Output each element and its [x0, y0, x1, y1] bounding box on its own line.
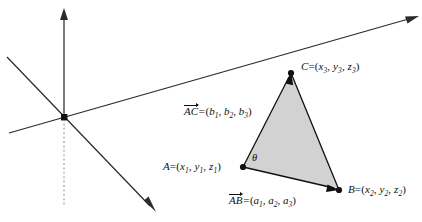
vector-ac-name: AC: [184, 105, 198, 117]
triangle-abc-fill: [243, 73, 339, 190]
point-a-x-sub: 1: [185, 166, 189, 175]
point-b-label: B=(x2, y2, z2): [348, 184, 406, 195]
vertical-axis-arrowhead: [60, 8, 68, 20]
point-a-name: A: [163, 160, 170, 172]
point-c-x-sub: 3: [324, 66, 328, 75]
vector-ac-equals: =: [198, 105, 205, 117]
vector-ab-comp3: a: [283, 194, 289, 206]
vector-ab-equals: =: [242, 194, 249, 206]
point-b-y-sub: 2: [384, 189, 388, 198]
vector-ac-comp2-sub: 2: [229, 111, 233, 120]
point-b-name: B: [348, 183, 355, 195]
vector-ab-comp1-sub: 1: [259, 200, 263, 209]
vector-ab-comp2: a: [268, 194, 274, 206]
point-a-y-sub: 1: [199, 166, 203, 175]
point-c-label: C=(x3, y3, z3): [301, 61, 360, 72]
vector-ac-label: AC=(b1, b2, b3): [184, 105, 252, 117]
vector-ab-comp2-sub: 2: [274, 200, 278, 209]
vector-ab-label: AB=(a1, a2, a3): [229, 194, 296, 206]
point-b-z-sub: 2: [398, 189, 402, 198]
vertex-b-point: [336, 187, 342, 193]
point-c-paren-close: ): [356, 60, 360, 72]
front-axis-line: [7, 57, 150, 206]
point-a-label: A=(x1, y1, z1): [163, 161, 221, 172]
vertex-c-point: [288, 70, 294, 76]
front-axis-arrowhead: [144, 197, 156, 213]
point-c-x: x: [319, 60, 324, 72]
vector-ab-paren-close: ): [292, 194, 296, 206]
point-c-y-sub: 3: [338, 66, 342, 75]
angle-theta-label: θ: [252, 152, 257, 163]
point-a-z-sub: 1: [213, 166, 217, 175]
point-a-paren-close: ): [217, 160, 221, 172]
vector-ac-comp1-sub: 1: [215, 111, 219, 120]
point-c-z-sub: 3: [352, 66, 356, 75]
vector-ab-name: AB: [229, 194, 242, 206]
vector-ab-comp3-sub: 3: [289, 200, 293, 209]
point-b-paren-close: ): [402, 183, 406, 195]
vector-ac-paren-close: ): [248, 105, 252, 117]
right-axis-arrowhead: [405, 16, 419, 24]
vector-triangle-figure: C=(x3, y3, z3) A=(x1, y1, z1) B=(x2, y2,…: [0, 0, 422, 222]
vertex-a-point: [240, 164, 246, 170]
point-b-x-sub: 2: [370, 189, 374, 198]
vector-ac-comp1: b: [209, 105, 215, 117]
origin-point: [61, 114, 67, 120]
vector-ac-comp3-sub: 3: [244, 111, 248, 120]
